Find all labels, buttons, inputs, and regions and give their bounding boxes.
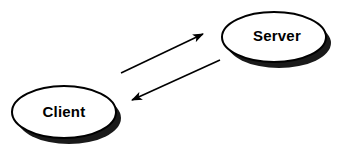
- connector-arrows: [121, 34, 220, 100]
- server-label: Server: [253, 27, 301, 44]
- diagram-svg: Client Server: [0, 0, 339, 158]
- arrow-server-to-client: [132, 60, 220, 100]
- client-label: Client: [43, 103, 86, 120]
- node-server: Server: [222, 12, 326, 62]
- arrow-client-to-server: [121, 34, 203, 73]
- client-server-diagram: Client Server: [0, 0, 339, 158]
- node-client: Client: [12, 86, 116, 138]
